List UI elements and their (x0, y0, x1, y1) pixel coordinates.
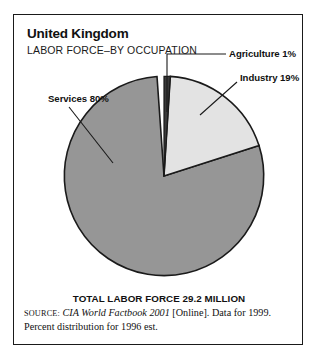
source-label: Source: (24, 309, 60, 318)
total-labor-force-caption: TOTAL LABOR FORCE 29.2 MILLION (14, 293, 304, 304)
source-reference: CIA World Factbook 2001 (63, 307, 170, 318)
pie-label-industry: Industry 19% (240, 72, 299, 83)
figure-frame: United Kingdom LABOR FORCE–BY OCCUPATION… (13, 14, 303, 345)
source-note: Source: CIA World Factbook 2001 [Online]… (24, 307, 296, 333)
pie-label-services: Services 80% (48, 93, 109, 104)
pie-label-agriculture: Agriculture 1% (229, 48, 296, 59)
